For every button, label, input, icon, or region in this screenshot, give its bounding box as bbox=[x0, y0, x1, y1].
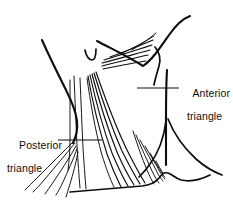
thyroid-notch-mark-path bbox=[85, 49, 96, 60]
label-anterior-line1: Anterior bbox=[193, 87, 231, 99]
median-fiber bbox=[80, 78, 86, 189]
label-anterior-line2: triangle bbox=[181, 111, 230, 123]
trapezius-fiber bbox=[66, 152, 78, 197]
label-posterior-triangle: Posterior triangle bbox=[7, 128, 62, 197]
supraclavicular-fiber bbox=[133, 131, 154, 184]
sternocleidomastoid-fibers bbox=[87, 72, 145, 187]
submandibular-fiber-bundle bbox=[102, 33, 156, 69]
trapezius-border-path bbox=[139, 121, 166, 177]
label-posterior-line2: triangle bbox=[7, 163, 62, 175]
label-anterior-triangle: Anterior triangle bbox=[181, 76, 230, 145]
neck-triangles-figure: Anterior triangle Posterior triangle bbox=[0, 0, 233, 208]
right-neck-contour-path bbox=[166, 70, 167, 165]
label-posterior-line1: Posterior bbox=[19, 139, 62, 151]
mandible-lower-border-path bbox=[97, 16, 190, 66]
